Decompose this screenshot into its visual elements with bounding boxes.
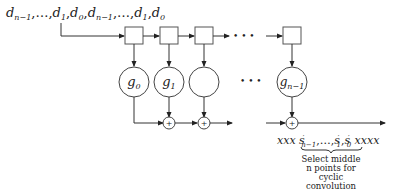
delay-box-1 [125, 27, 143, 44]
ellipsis-top: • • • [233, 31, 255, 41]
adder-plus-1: + [166, 119, 173, 128]
delay-box-last [283, 27, 301, 44]
convolution-diagram: dn−1,…,d1,d0,dn−1,…,d1,d0 • • • g0 g1 gn… [0, 0, 393, 189]
delay-box-3 [195, 27, 213, 44]
g0-to-adder-arrow [134, 97, 163, 123]
adder-plus-last: + [289, 119, 296, 128]
delay-box-2 [160, 27, 178, 44]
caption-line-4: convolution [306, 181, 357, 189]
input-sequence-label: dn−1,…,d1,d0,dn−1,…,d1,d0 [6, 5, 165, 22]
adder-plus-2: + [201, 119, 208, 128]
coefficient-circle-3 [189, 67, 219, 97]
diagram-canvas: dn−1,…,d1,d0,dn−1,…,d1,d0 • • • g0 g1 gn… [0, 0, 393, 189]
output-sequence-label: xxx s′n−1,…,s′1,s′0 xxxx [277, 134, 380, 149]
ellipsis-middle: • • • [240, 76, 262, 86]
input-arrow [61, 23, 124, 36]
